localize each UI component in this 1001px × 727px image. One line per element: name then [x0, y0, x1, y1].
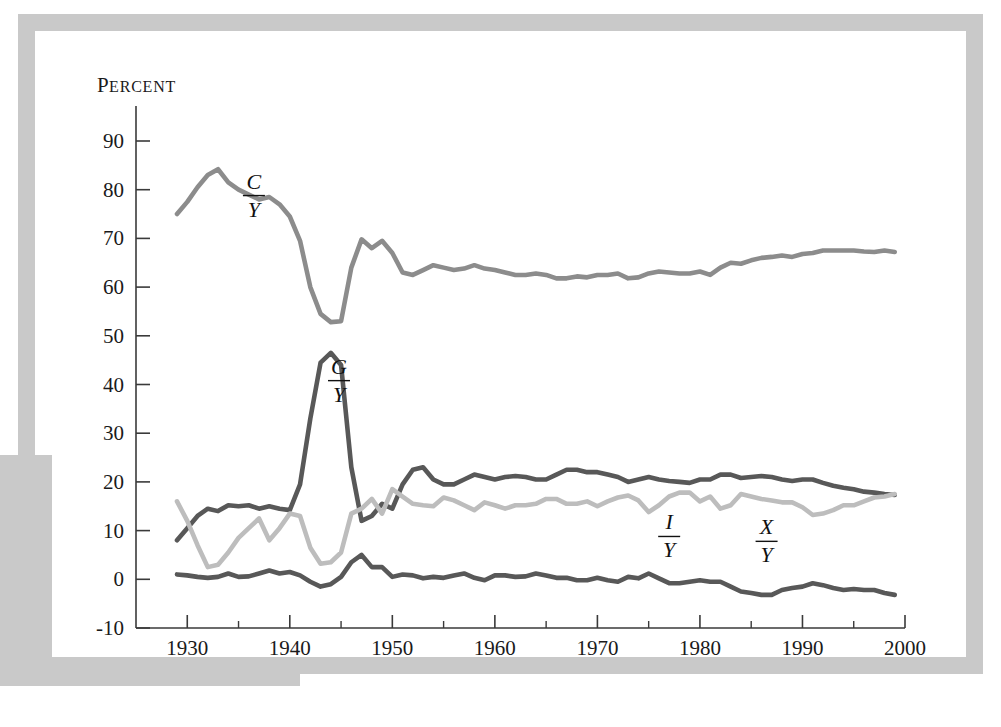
figure-root: -100102030405060708090193019401950196019…	[0, 0, 1001, 727]
series-label-i-over-y: IY	[658, 509, 680, 562]
percent-smallcaps: ERCENT	[109, 78, 176, 95]
line-chart: -100102030405060708090193019401950196019…	[0, 0, 1001, 727]
y-axis-title: PERCENT	[97, 73, 176, 97]
fraction-denominator: Y	[663, 537, 678, 562]
data-line-g-over-y	[177, 353, 895, 540]
y-axis-tick-label: 40	[103, 373, 124, 397]
fraction-numerator: G	[331, 354, 347, 379]
x-axis-tick-label: 1980	[679, 636, 721, 660]
y-axis-tick-label: 60	[103, 275, 124, 299]
data-line-i-over-y	[177, 489, 895, 567]
y-axis-tick-label: 30	[103, 421, 124, 445]
y-axis-tick-label: -10	[96, 616, 124, 640]
y-axis-tick-label: 50	[103, 324, 124, 348]
data-line-c-over-y	[177, 169, 895, 322]
y-axis-tick-label: 0	[114, 567, 125, 591]
x-axis-tick-label: 1960	[474, 636, 516, 660]
x-axis-tick-label: 1970	[576, 636, 618, 660]
x-axis-tick-label: 1990	[781, 636, 823, 660]
series-layer	[177, 169, 895, 595]
data-line-x-over-y	[177, 555, 895, 595]
x-axis-tick-label: 1950	[371, 636, 413, 660]
series-label-c-over-y: CY	[243, 169, 265, 222]
fraction-numerator: X	[759, 514, 775, 539]
x-axis-tick-label: 2000	[884, 636, 926, 660]
y-axis-tick-label: 20	[103, 470, 124, 494]
y-axis-tick-label: 70	[103, 226, 124, 250]
y-axis-tick-label: 90	[103, 129, 124, 153]
fraction-denominator: Y	[760, 542, 775, 567]
series-label-x-over-y: XY	[756, 514, 778, 567]
x-axis-tick-label: 1930	[166, 636, 208, 660]
fraction-numerator: C	[247, 169, 262, 194]
percent-initial: P	[97, 73, 109, 97]
y-axis-tick-label: 10	[103, 519, 124, 543]
x-axis-tick-label: 1940	[269, 636, 311, 660]
y-axis-tick-label: 80	[103, 178, 124, 202]
fraction-numerator: I	[665, 509, 675, 534]
